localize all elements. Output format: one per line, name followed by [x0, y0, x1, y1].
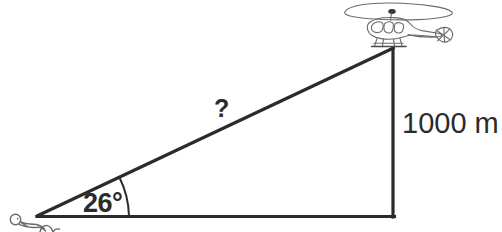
angle-label: 26° — [83, 190, 122, 217]
height-label: 1000 m — [402, 109, 499, 138]
diagram-canvas: ? 26° 1000 m — [0, 0, 502, 232]
hypotenuse-label: ? — [214, 96, 229, 121]
helicopter-icon — [345, 3, 453, 46]
